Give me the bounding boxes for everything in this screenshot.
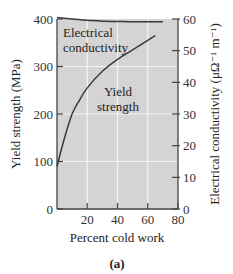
- chart-figure: 2040608001002003004000102030405060 Elect…: [0, 0, 233, 274]
- y-tick-label: 300: [34, 59, 54, 74]
- y-tick-label: 200: [34, 107, 54, 122]
- x-tick-label: 60: [141, 212, 154, 227]
- x-tick-label: 40: [111, 212, 124, 227]
- yield-strength-annotation: strength: [97, 99, 139, 114]
- yield-strength-annotation: Yield: [104, 84, 133, 99]
- y-right-tick-label: 20: [183, 138, 196, 153]
- electrical-conductivity-annotation: conductivity: [63, 40, 128, 55]
- x-tick-label: 20: [81, 212, 94, 227]
- y-tick-label: 100: [34, 154, 54, 169]
- y-tick-label: 400: [34, 12, 54, 27]
- y-right-tick-label: 50: [183, 43, 196, 58]
- y-right-tick-label: 0: [183, 202, 190, 217]
- y-right-tick-label: 60: [183, 12, 196, 27]
- y-right-tick-label: 40: [183, 75, 196, 90]
- figure-caption: (a): [109, 256, 124, 271]
- y-axis-right-label: Electrical conductivity (μΩ⁻¹ m⁻¹): [207, 23, 222, 204]
- y-tick-label: 0: [47, 202, 54, 217]
- y-axis-label: Yield strength (MPa): [8, 59, 23, 169]
- y-right-tick-label: 10: [183, 170, 196, 185]
- x-axis-label: Percent cold work: [70, 230, 165, 245]
- electrical-conductivity-annotation: Electrical: [63, 25, 113, 40]
- y-right-tick-label: 30: [183, 107, 196, 122]
